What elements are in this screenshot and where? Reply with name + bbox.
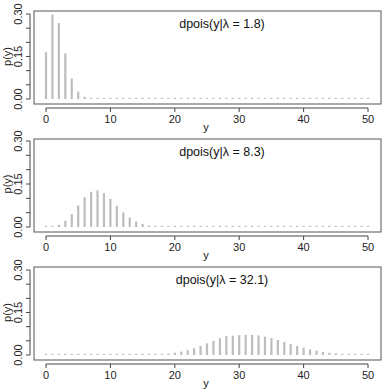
x-tick-label: 10	[104, 369, 116, 381]
x-tick-label: 10	[104, 113, 116, 125]
x-tick-label: 0	[43, 241, 49, 253]
x-tick-label: 30	[233, 369, 245, 381]
y-tick-label: 0.15	[12, 46, 24, 67]
chart-title: dpois(y|λ = 8.3)	[179, 145, 265, 159]
y-tick-label: 0.15	[12, 302, 24, 323]
y-axis-label: p(y)	[1, 47, 13, 66]
x-tick-label: 40	[297, 369, 309, 381]
chart-title: dpois(y|λ = 32.1)	[176, 273, 269, 287]
y-axis-label: p(y)	[1, 175, 13, 194]
y-tick-label: 0.00	[12, 216, 24, 237]
x-axis-label: y	[203, 377, 209, 389]
x-tick-label: 40	[297, 241, 309, 253]
y-tick-label: 0.30	[12, 259, 24, 280]
x-axis-label: y	[203, 121, 209, 133]
x-tick-label: 50	[362, 369, 374, 381]
y-tick-label: 0.15	[12, 173, 24, 194]
chart-panel-1: 0.000.150.30p(y)01020304050ydpois(y|λ = …	[1, 3, 381, 133]
x-tick-label: 0	[43, 369, 49, 381]
chart-panel-3: 0.000.150.30p(y)01020304050ydpois(y|λ = …	[1, 259, 381, 389]
x-tick-label: 0	[43, 113, 49, 125]
chart-title: dpois(y|λ = 1.8)	[179, 17, 265, 31]
x-tick-label: 30	[233, 113, 245, 125]
x-tick-label: 30	[233, 241, 245, 253]
x-tick-label: 10	[104, 241, 116, 253]
y-tick-label: 0.30	[12, 130, 24, 151]
y-axis-label: p(y)	[1, 303, 13, 322]
x-tick-label: 50	[362, 113, 374, 125]
y-tick-label: 0.00	[12, 88, 24, 109]
x-tick-label: 20	[169, 369, 181, 381]
x-tick-label: 20	[169, 241, 181, 253]
poisson-charts: 0.000.150.30p(y)01020304050ydpois(y|λ = …	[0, 0, 388, 392]
x-tick-label: 50	[362, 241, 374, 253]
x-axis-label: y	[203, 249, 209, 261]
chart-panel-2: 0.000.150.30p(y)01020304050ydpois(y|λ = …	[1, 130, 381, 261]
x-tick-label: 40	[297, 113, 309, 125]
x-tick-label: 20	[169, 113, 181, 125]
y-tick-label: 0.00	[12, 344, 24, 365]
y-tick-label: 0.30	[12, 3, 24, 24]
